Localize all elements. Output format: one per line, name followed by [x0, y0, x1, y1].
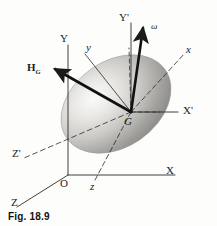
axis-label-x-body: x — [186, 44, 191, 55]
centroid-point — [130, 111, 133, 114]
vector-label-angular-momentum: HG — [27, 62, 41, 76]
axis-label-x-prime: X' — [183, 105, 193, 116]
axis-label-x: X — [166, 165, 174, 176]
axis-label-g: G — [124, 116, 132, 127]
axis-label-omega: ω — [151, 22, 157, 31]
vector-label-h: H — [27, 61, 36, 73]
axis-label-z: Z — [11, 197, 18, 208]
axis-label-y-prime: Y' — [119, 12, 129, 23]
axis-label-y: Y — [60, 33, 68, 44]
vector-label-h-subscript: G — [36, 68, 41, 76]
axis-label-y-body: y — [86, 42, 91, 53]
axis-label-origin: O — [60, 178, 68, 189]
figure-caption: Fig. 18.9 — [8, 211, 50, 222]
axis-label-z-body: z — [90, 181, 94, 192]
axis-label-z-prime: Z' — [12, 148, 21, 159]
figure-container: Y' ω Y y x HG X' G Z' X O z Z Fig. 18.9 — [0, 0, 217, 226]
